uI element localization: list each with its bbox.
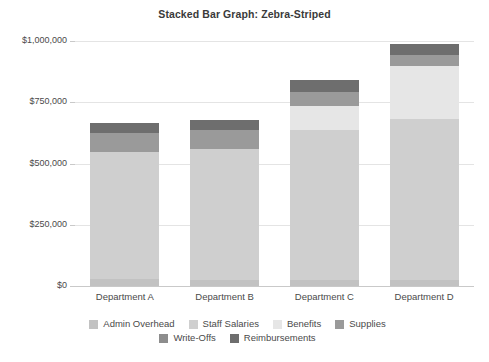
bar-segment[interactable] [290,130,359,280]
plot-area [75,41,474,286]
legend-swatch-icon [273,320,282,329]
x-axis-label: Department A [70,291,180,302]
legend-label: Benefits [287,319,321,329]
x-axis-label: Department D [369,291,479,302]
y-axis-label: $1,000,000 [0,35,67,45]
y-axis-label: $500,000 [0,158,67,168]
legend-label: Supplies [349,319,385,329]
y-axis-tick [70,102,75,103]
legend-item[interactable]: Staff Salaries [189,317,259,331]
y-axis-label: $750,000 [0,96,67,106]
bar-segment[interactable] [390,280,459,286]
legend-label: Staff Salaries [203,319,259,329]
bar-segment[interactable] [190,149,259,280]
bar-segment[interactable] [390,66,459,119]
legend-label: Write-Offs [173,333,215,343]
legend-item[interactable]: Write-Offs [159,331,215,345]
bar-segment[interactable] [290,80,359,92]
bar-group[interactable] [90,41,159,286]
bar-segment[interactable] [90,123,159,133]
bar-group[interactable] [290,41,359,286]
legend-swatch-icon [159,334,168,343]
bar-segment[interactable] [190,130,259,149]
bar-segment[interactable] [390,55,459,66]
y-axis-label: $0 [0,280,67,290]
y-axis-tick [70,41,75,42]
x-axis-label: Department B [170,291,280,302]
bar-segment[interactable] [190,280,259,286]
y-axis-tick [70,225,75,226]
legend-label: Admin Overhead [103,319,174,329]
bar-segment[interactable] [190,120,259,130]
legend-item[interactable]: Benefits [273,317,321,331]
y-axis-tick [70,164,75,165]
bar-segment[interactable] [290,280,359,286]
y-axis-label: $250,000 [0,219,67,229]
x-axis-line [75,286,474,287]
legend-swatch-icon [189,320,198,329]
legend-swatch-icon [335,320,344,329]
legend-label: Reimbursements [244,333,316,343]
legend-item[interactable]: Supplies [335,317,385,331]
stacked-bar-chart: Stacked Bar Graph: Zebra-Striped $0$250,… [0,0,489,362]
bar-segment[interactable] [390,119,459,279]
bar-group[interactable] [190,41,259,286]
bar-group[interactable] [390,41,459,286]
legend-swatch-icon [89,320,98,329]
bar-segment[interactable] [290,106,359,130]
legend-item[interactable]: Admin Overhead [89,317,174,331]
bar-segment[interactable] [290,92,359,106]
legend-swatch-icon [230,334,239,343]
legend-item[interactable]: Reimbursements [230,331,316,345]
chart-legend: Admin OverheadStaff SalariesBenefitsSupp… [0,317,489,345]
bar-segment[interactable] [90,133,159,152]
bar-segment[interactable] [90,279,159,286]
x-axis-label: Department C [269,291,379,302]
bar-segment[interactable] [90,152,159,279]
bar-segment[interactable] [390,44,459,56]
chart-title: Stacked Bar Graph: Zebra-Striped [0,8,489,20]
